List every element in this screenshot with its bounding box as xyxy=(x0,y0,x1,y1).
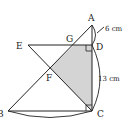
label-d: D xyxy=(96,42,103,52)
label-b: B xyxy=(0,109,4,118)
arc-ad xyxy=(92,25,96,45)
label-a: A xyxy=(87,13,95,23)
measure-bc: 18 xyxy=(43,117,52,118)
shaded-region xyxy=(50,45,92,111)
label-e: E xyxy=(16,41,23,51)
leader-6cm xyxy=(97,27,104,33)
label-f: F xyxy=(46,73,52,83)
measure-ad: 6 cm xyxy=(105,25,123,33)
label-c: C xyxy=(97,109,104,118)
geometry-figure: A B C D E F G 6 cm 13 cm 18 xyxy=(0,0,125,118)
label-g: G xyxy=(66,34,73,44)
measure-dc: 13 cm xyxy=(98,75,120,83)
